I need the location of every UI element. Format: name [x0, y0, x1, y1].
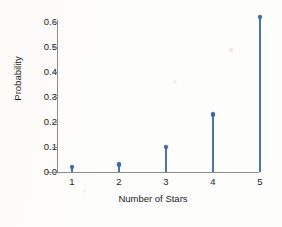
- y-axis-title: Probability: [12, 34, 23, 124]
- data-point-marker: [117, 162, 121, 166]
- data-point-marker: [211, 112, 215, 116]
- x-axis-line: [47, 172, 259, 173]
- data-point-marker: [70, 165, 74, 169]
- x-tick-label: 1: [60, 177, 84, 187]
- x-tick-label: 4: [201, 177, 225, 187]
- stem-line: [259, 17, 260, 172]
- stem-line: [165, 147, 166, 172]
- y-tick-mark: [52, 122, 57, 123]
- y-tick-mark: [52, 47, 57, 48]
- data-point-marker: [258, 15, 262, 19]
- y-tick-mark: [52, 172, 57, 173]
- x-tick-label: 2: [107, 177, 131, 187]
- y-tick-mark: [52, 97, 57, 98]
- x-tick-label: 3: [154, 177, 178, 187]
- x-axis-title: Number of Stars: [47, 193, 259, 204]
- x-tick-label: 5: [248, 177, 272, 187]
- stem-line: [212, 115, 213, 173]
- y-tick-mark: [52, 22, 57, 23]
- plot-area: 0.00.10.20.30.40.50.6 12345 Probability …: [0, 0, 282, 227]
- data-point-marker: [164, 145, 168, 149]
- y-tick-mark: [52, 72, 57, 73]
- y-tick-mark: [52, 147, 57, 148]
- y-axis-line: [57, 20, 58, 173]
- probability-stem-chart: 0.00.10.20.30.40.50.6 12345 Probability …: [0, 0, 282, 227]
